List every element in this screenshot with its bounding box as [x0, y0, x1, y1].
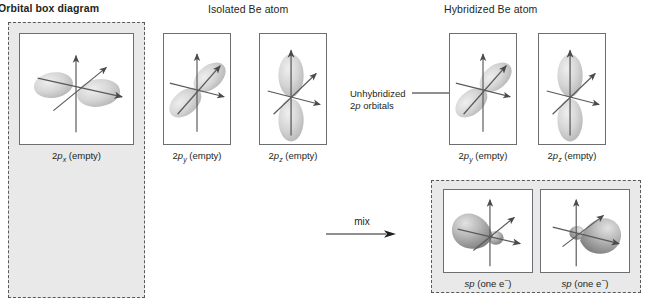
header-hybridized-be-atom: Hybridized Be atom	[444, 3, 537, 15]
caption-close: )	[605, 278, 608, 289]
orbital-panel-sp-left	[443, 189, 533, 273]
orbital-panel-2pz	[259, 33, 327, 145]
caption-state: (one e	[572, 278, 602, 289]
orbital-caption-sp-right: sp (one e−)	[540, 277, 630, 289]
orbital-render-2px	[20, 34, 133, 144]
header-isolated-be-atom: Isolated Be atom	[208, 3, 288, 15]
orbital-render-2py-hybridized	[450, 34, 516, 144]
caption-state: (empty)	[283, 150, 318, 161]
orbital-panel-2pz-hybridized	[538, 33, 606, 145]
caption-letter: sp	[562, 278, 572, 289]
orbital-panel-sp-right	[540, 189, 630, 273]
caption-close: )	[508, 278, 511, 289]
caption-letter: sp	[465, 278, 475, 289]
orbital-render-2py	[164, 34, 230, 144]
orbital-caption-2pz-hybridized: 2pz (empty)	[532, 150, 612, 163]
caption-state: (empty)	[66, 150, 101, 161]
mix-arrow-icon	[326, 228, 398, 242]
annotation-suffix: orbitals	[361, 100, 394, 111]
orbital-render-2pz-hybridized	[539, 34, 605, 144]
orbital-panel-2py	[163, 33, 231, 145]
orbital-caption-2py: 2py (empty)	[157, 150, 237, 163]
orbital-render-2pz	[260, 34, 326, 144]
orbital-panel-2py-hybridized	[449, 33, 517, 145]
orbital-render-sp-left	[444, 190, 532, 272]
caption-state: (one e	[475, 278, 505, 289]
caption-state: (empty)	[187, 150, 222, 161]
orbital-panel-2px	[19, 33, 134, 145]
annotation-leader-line	[412, 88, 452, 100]
orbital-render-sp-right	[541, 190, 629, 272]
orbital-caption-2px: 2px (empty)	[19, 150, 134, 163]
header-orbital-box-diagram: Orbital box diagram	[0, 2, 99, 14]
caption-state: (empty)	[562, 150, 597, 161]
annotation-line-1: Unhybridized	[350, 88, 405, 100]
annotation-unhybridized-2p: Unhybridized 2p orbitals	[350, 88, 405, 111]
orbital-caption-2py-hybridized: 2py (empty)	[443, 150, 523, 163]
caption-state: (empty)	[473, 150, 508, 161]
mix-label: mix	[327, 216, 397, 227]
orbital-caption-sp-left: sp (one e−)	[443, 277, 533, 289]
annotation-line-2: 2p orbitals	[350, 100, 405, 112]
orbital-caption-2pz: 2pz (empty)	[253, 150, 333, 163]
